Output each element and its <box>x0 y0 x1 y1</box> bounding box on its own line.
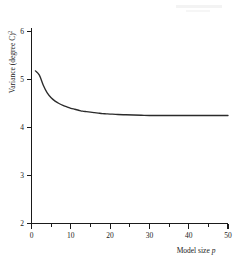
y-axis-tick-labels: 6 5 4 3 2 <box>20 27 24 228</box>
x-axis-tick-labels: 0 10 20 30 40 50 <box>30 231 232 240</box>
x-tick-label-20: 20 <box>106 231 114 240</box>
y-tick-label-6: 6 <box>20 27 24 36</box>
x-axis-title: Model size p <box>177 246 216 255</box>
y-axis-title-exponent: 2 <box>7 30 13 33</box>
y-axis-ticks <box>27 32 32 224</box>
x-tick-label-10: 10 <box>67 231 75 240</box>
y-tick-label-3: 3 <box>20 171 24 180</box>
y-tick-label-4: 4 <box>20 123 24 132</box>
x-tick-label-30: 30 <box>146 231 154 240</box>
y-tick-label-5: 5 <box>20 75 24 84</box>
x-axis-title-text: Model size <box>177 246 211 255</box>
x-tick-label-50: 50 <box>224 231 232 240</box>
y-axis-title: Variance (degree C)2 <box>7 30 17 93</box>
variance-vs-model-size-chart: 6 5 4 3 2 0 10 20 30 <box>0 0 244 265</box>
x-tick-label-0: 0 <box>30 231 34 240</box>
variance-curve <box>35 71 228 116</box>
figure-container: 6 5 4 3 2 0 10 20 30 <box>0 0 244 265</box>
x-axis-title-symbol: p <box>211 246 216 255</box>
x-tick-label-40: 40 <box>185 231 193 240</box>
y-axis-title-text: Variance (degree C) <box>8 33 17 93</box>
y-tick-label-2: 2 <box>20 219 24 228</box>
